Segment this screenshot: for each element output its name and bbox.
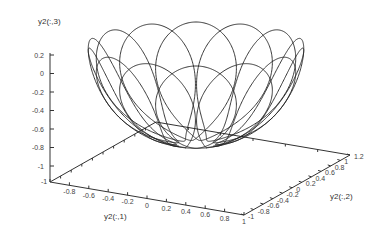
x-tick-label: 0.8 xyxy=(220,215,230,222)
x-tick-label: 0.2 xyxy=(162,205,172,212)
x-tick-label: -1 xyxy=(41,178,47,185)
y-tick-label: 1.2 xyxy=(354,153,364,160)
trajectory-line xyxy=(88,22,304,148)
z-tick-label: -0.8 xyxy=(32,144,44,151)
z-tick-label: -0.2 xyxy=(32,89,44,96)
y-axis-label: y2(:,2) xyxy=(330,192,353,201)
y-tick-label: 0 xyxy=(296,186,300,193)
x-tick-label: 1 xyxy=(242,218,246,225)
x-tick-label: -0.4 xyxy=(102,195,114,202)
x-tick-label: 0.6 xyxy=(200,211,210,218)
z-axis-ticks: 0.20-0.2-0.4-0.6-0.8-1 xyxy=(32,52,54,170)
x-axis-ticks: -1-0.8-0.6-0.4-0.200.20.40.60.81 xyxy=(41,178,246,225)
z-tick-label: -1 xyxy=(38,163,44,170)
x-tick-label: 0 xyxy=(145,202,149,209)
z-tick-label: 0.2 xyxy=(34,52,44,59)
x-axis-label: y2(:,1) xyxy=(104,212,127,221)
x-tick-label: -0.6 xyxy=(83,192,95,199)
z-axis-label: y2(:,3) xyxy=(38,17,61,26)
y-tick-label: -1 xyxy=(248,213,254,220)
x-tick-label: -0.2 xyxy=(122,198,134,205)
back-edge-ticks xyxy=(61,128,318,179)
y-axis-ticks: -1-0.8-0.6-0.4-0.200.20.40.60.811.2 xyxy=(241,153,364,220)
y-tick-label: 0.6 xyxy=(325,169,335,176)
z-tick-label: 0 xyxy=(40,70,44,77)
y-tick-label: 0.8 xyxy=(335,164,345,171)
x-tick-label: 0.4 xyxy=(181,208,191,215)
y-tick-label: 1 xyxy=(344,158,348,165)
z-tick-label: -0.4 xyxy=(32,107,44,114)
x-tick-label: -0.8 xyxy=(63,188,75,195)
chart-3d-plot: 0.20-0.2-0.4-0.6-0.8-1 y2(:,3) -1-0.8-0.… xyxy=(0,0,376,232)
y-tick-label: 0.4 xyxy=(315,175,325,182)
y-tick-label: 0.2 xyxy=(306,180,316,187)
bowl-curve xyxy=(88,22,304,148)
z-tick-label: -0.6 xyxy=(32,126,44,133)
